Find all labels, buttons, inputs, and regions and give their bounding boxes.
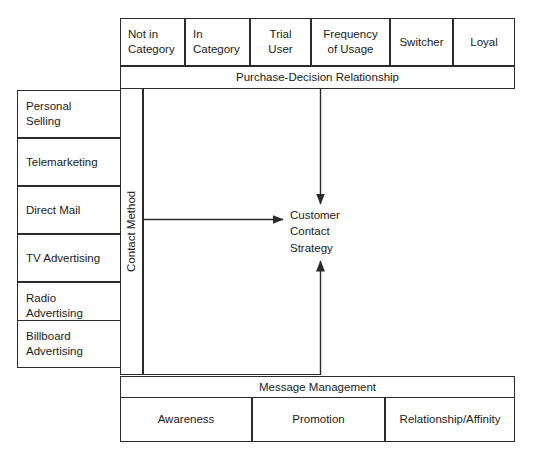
segment-label: Loyal [470,35,498,50]
customer-contact-strategy-diagram: Not in Category In Category Trial User F… [0,0,534,463]
message-stage-awareness: Awareness [120,397,252,442]
segment-cell-not-in-category: Not in Category [120,18,185,66]
band-message-management: Message Management [120,376,515,399]
segment-label: Trial User [268,27,292,56]
contact-method-label: Telemarketing [26,155,98,170]
contact-method-label: Radio Advertising [26,291,83,320]
axis-contact-method-label: Contact Method [124,191,139,272]
band-label: Message Management [259,380,376,395]
segment-label: Switcher [399,35,443,50]
message-stage-label: Relationship/Affinity [400,412,501,427]
segment-label: In Category [193,27,240,56]
segment-cell-switcher: Switcher [390,18,453,66]
segment-label: Not in Category [128,27,175,56]
contact-method-label: Personal Selling [26,99,71,128]
segment-cell-loyal: Loyal [453,18,515,66]
band-label: Purchase-Decision Relationship [236,70,399,85]
contact-method-billboard-advertising: Billboard Advertising [17,320,123,368]
contact-method-personal-selling: Personal Selling [17,90,123,138]
message-stage-promotion: Promotion [252,397,385,442]
segment-cell-in-category: In Category [185,18,250,66]
band-purchase-decision-relationship: Purchase-Decision Relationship [120,66,515,89]
contact-method-direct-mail: Direct Mail [17,186,123,234]
contact-method-telemarketing: Telemarketing [17,138,123,186]
customer-contact-strategy-label: Customer Contact Strategy [290,207,340,256]
message-stage-label: Awareness [158,412,215,427]
contact-method-label: TV Advertising [26,251,100,266]
message-stage-relationship-affinity: Relationship/Affinity [385,397,515,442]
contact-method-label: Direct Mail [26,203,80,218]
message-stage-label: Promotion [292,412,344,427]
contact-method-tv-advertising: TV Advertising [17,234,123,282]
segment-label: Frequency of Usage [323,27,377,56]
segment-cell-trial-user: Trial User [250,18,311,66]
axis-contact-method: Contact Method [120,88,143,375]
contact-method-label: Billboard Advertising [26,329,83,358]
segment-cell-frequency-of-usage: Frequency of Usage [311,18,390,66]
